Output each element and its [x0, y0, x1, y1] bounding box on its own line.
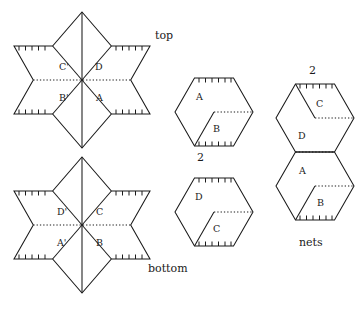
stacked-net-face-label-b: B: [317, 198, 324, 208]
stacked-net-face-label-a: A: [299, 166, 306, 176]
hexagon-upper-multiplier: 2: [197, 152, 204, 163]
hexagon-lower-face-label-c: C: [213, 224, 220, 234]
hexagon-upper-face-label-a: A: [196, 92, 203, 102]
caption-bottom: bottom: [148, 263, 188, 274]
star-top-face-label-d: D: [95, 62, 103, 72]
star-top-face-label-c-prime: C': [59, 62, 69, 72]
stacked-net-lower-partition: [296, 186, 355, 220]
hexagon-lower-partition: [195, 212, 254, 246]
star-bottom-face-label-a-prime: A': [57, 238, 66, 248]
stacked-net-face-label-d: D: [298, 131, 306, 141]
hexagon-lower-face-label-d: D: [195, 192, 203, 202]
stacked-net-face-label-c: C: [316, 99, 323, 109]
star-top-face-label-a: A: [96, 93, 103, 103]
star-bottom-face-label-c: C: [96, 207, 103, 217]
star-bottom-face-label-d-prime: D': [57, 207, 67, 217]
nets-figure: C' D B' A D' C A' B A B 2 D C 2 C D A B …: [0, 0, 360, 315]
stacked-net-multiplier: 2: [309, 65, 316, 76]
star-top-face-label-b-prime: B': [59, 93, 69, 103]
hexagon-upper-partition: [195, 112, 254, 146]
star-top-inner-edges: [53, 12, 112, 148]
star-bottom-face-label-b: B: [96, 238, 103, 248]
caption-top: top: [155, 30, 173, 41]
stacked-net-upper-partition: [296, 84, 355, 118]
star-bottom-inner-edges: [53, 157, 112, 293]
caption-nets: nets: [299, 237, 323, 248]
hexagon-upper-face-label-b: B: [213, 124, 220, 134]
